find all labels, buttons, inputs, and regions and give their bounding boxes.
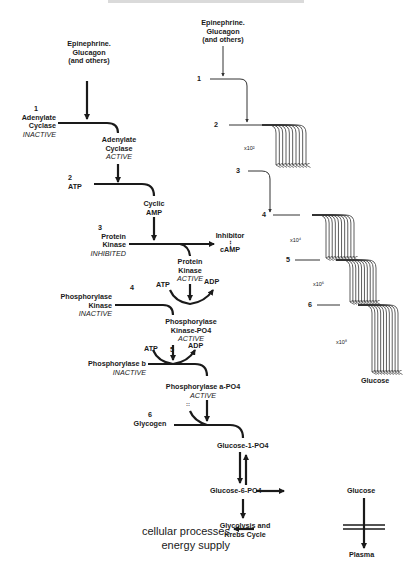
product-name: AMP bbox=[134, 209, 174, 218]
inhibitor-camp: Inhibitor ⋮ cAMP bbox=[210, 232, 250, 254]
substrate-name: Glycogen bbox=[130, 420, 170, 429]
energy-line: energy supply bbox=[130, 538, 230, 552]
level-2-factor: x10² bbox=[244, 144, 255, 153]
step-5-active: Phosphorylase a-PO4 ACTIVE bbox=[164, 383, 242, 400]
state-label: INACTIVE bbox=[60, 310, 112, 319]
level-4-number: 4 bbox=[262, 211, 266, 220]
camp-label: cAMP bbox=[210, 246, 250, 255]
level-6-number: 6 bbox=[308, 301, 312, 310]
level-1-number: 1 bbox=[197, 75, 201, 84]
step-4-adp: ADP bbox=[204, 278, 219, 287]
state-label: INACTIVE bbox=[8, 131, 56, 140]
level-4-factor: x10⁴ bbox=[290, 236, 301, 245]
level-5-number: 5 bbox=[286, 256, 290, 265]
binding-dots: :: bbox=[186, 400, 190, 409]
stimulus-label-right: Epinephrine. Glucagon (and others) bbox=[193, 19, 253, 45]
glucose-free: Glucose bbox=[347, 487, 375, 496]
state-label: INACTIVE bbox=[68, 369, 146, 378]
level-5-factor: x10⁶ bbox=[313, 280, 324, 289]
step-4-inactive: Phosphorylase Kinase INACTIVE bbox=[60, 293, 112, 319]
plasma-label: Plasma bbox=[349, 551, 374, 560]
stimulus-line: (and others) bbox=[56, 57, 122, 66]
stimulus-label-left: Epinephrine. Glucagon (and others) bbox=[56, 40, 122, 66]
cellular-processes: cellular processes energy supply bbox=[130, 524, 230, 552]
level-6-factor: x10⁸ bbox=[336, 338, 347, 347]
glucose-1-po4: Glucose-1-PO4 bbox=[217, 442, 269, 451]
step-5-inactive: Phosphorylase b INACTIVE bbox=[68, 360, 146, 377]
step-5-number: 5 bbox=[170, 346, 174, 355]
level-3-number: 3 bbox=[236, 167, 240, 176]
step-5-adp: ADP bbox=[188, 342, 203, 351]
cellular-line: cellular processes bbox=[130, 524, 230, 538]
step-5-atp: ATP bbox=[144, 345, 158, 354]
stimulus-line: (and others) bbox=[193, 36, 253, 45]
glucose-output: Glucose bbox=[361, 377, 389, 386]
step-4-active: Phosphorylase Kinase-PO4 ACTIVE bbox=[160, 318, 222, 344]
level-2-number: 2 bbox=[214, 121, 218, 130]
step-3-inactive: 3 Protein Kinase INHIBITED bbox=[80, 224, 126, 258]
glucose-6-po4: Glucose-6-PO4 bbox=[210, 487, 262, 496]
step-6-substrate: 6 Glycogen bbox=[130, 411, 170, 428]
step-1-active: Adenylate Cyclase ACTIVE bbox=[92, 136, 146, 162]
step-4-number: 4 bbox=[130, 284, 134, 293]
step-2-substrate: 2 ATP bbox=[68, 174, 82, 191]
substrate-name: ATP bbox=[68, 183, 82, 192]
state-label: ACTIVE bbox=[164, 392, 242, 401]
state-label: ACTIVE bbox=[92, 153, 146, 162]
step-2-product: Cyclic AMP bbox=[134, 200, 174, 217]
state-label: INHIBITED bbox=[80, 250, 126, 259]
step-4-atp: ATP bbox=[156, 281, 170, 290]
step-1-inactive: 1 Adenylate Cyclase INACTIVE bbox=[8, 105, 56, 139]
